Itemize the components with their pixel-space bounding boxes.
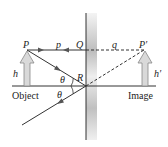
label-theta-incident: θ: [60, 74, 65, 85]
label-h: h: [13, 68, 18, 79]
arrowhead-icon: [54, 66, 61, 72]
label-P-prime: P′: [138, 39, 148, 50]
arrowhead-right-icon: [38, 48, 44, 53]
label-image: Image: [128, 90, 154, 101]
label-R: R: [76, 72, 83, 83]
label-P: P: [22, 39, 29, 50]
image-arrow: [138, 51, 152, 86]
label-h-prime: h′: [154, 68, 162, 79]
mirror: [86, 13, 97, 140]
object-arrow: [20, 51, 34, 86]
label-q: q: [112, 39, 117, 50]
angle-arc-reflected: [71, 86, 73, 94]
label-theta-reflected: θ: [57, 89, 62, 100]
label-object: Object: [12, 90, 39, 101]
arrowhead-left-icon: [63, 48, 69, 53]
flat-mirror-diagram: P p Q q P′ h h′ R θ θ Object Image: [0, 0, 168, 147]
label-p: p: [55, 39, 61, 50]
angle-arc-incident: [71, 78, 73, 86]
label-Q: Q: [76, 39, 84, 50]
